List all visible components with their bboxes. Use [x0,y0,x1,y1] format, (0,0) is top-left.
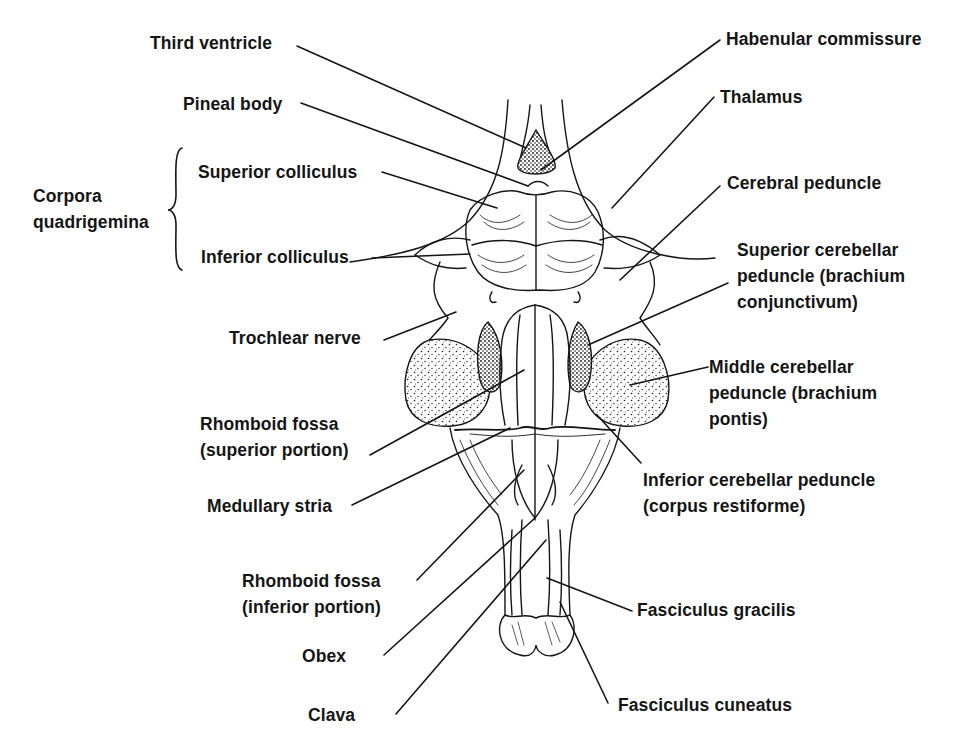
label-trochlear-nerve: Trochlear nerve [229,325,361,351]
label-third-ventricle: Third ventricle [150,30,272,56]
label-inferior-cerebellar-peduncle: Inferior cerebellar peduncle (corpus res… [643,467,875,519]
spinal-cord-section [500,615,575,656]
label-rhomboid-fossa-inferior: Rhomboid fossa (inferior portion) [242,568,381,620]
label-middle-cerebellar-peduncle: Middle cerebellar peduncle (brachium pon… [709,354,877,432]
middle-cerebellar-peduncle-right [584,339,669,426]
label-thalamus: Thalamus [720,84,803,110]
label-clava: Clava [308,702,355,728]
label-obex: Obex [302,643,346,669]
label-fasciculus-gracilis: Fasciculus gracilis [637,597,796,623]
pons-outline-right [640,262,660,345]
pons-outline-left [425,262,448,345]
label-corpora-quadrigemina: Corpora quadrigemina [33,183,149,235]
label-rhomboid-fossa-superior: Rhomboid fossa (superior portion) [200,411,349,463]
label-habenular-commissure: Habenular commissure [726,26,922,52]
brainstem-diagram: Third ventricle Pineal body Corpora quad… [0,0,980,756]
thalamus-left-outline [350,100,508,262]
label-inferior-colliculus: Inferior colliculus [201,244,349,270]
label-superior-cerebellar-peduncle: Superior cerebellar peduncle (brachium c… [737,237,905,315]
label-medullary-stria: Medullary stria [207,493,332,519]
pineal-body-shape [518,130,555,174]
label-cerebral-peduncle: Cerebral peduncle [727,170,881,196]
label-pineal-body: Pineal body [183,91,282,117]
medulla-outline-right [569,428,620,615]
label-superior-colliculus: Superior colliculus [198,159,357,185]
corpora-quadrigemina-brace [168,148,182,270]
label-fasciculus-cuneatus: Fasciculus cuneatus [618,692,792,718]
